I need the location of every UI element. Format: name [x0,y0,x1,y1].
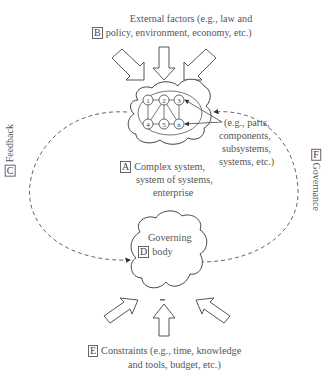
tag-e: E [88,345,98,357]
node-2: 2 [162,97,166,105]
node-3: 3 [177,97,181,105]
arrow-down-icon [153,47,175,80]
external-factors-label-line2: Bpolicy, environment, economy, etc.) [92,26,252,39]
tag-d: D [138,246,149,258]
external-factor-arrows [112,47,216,80]
governing-body-label: Governing [148,231,192,244]
complex-system-cloud [128,79,211,144]
complex-system-label-line3: enterprise [153,186,193,199]
parts-note-line4: systems, etc.) [219,155,274,168]
complex-system-label: AComplex system, [120,160,205,173]
tag-a: A [120,161,131,173]
arrow-right-down-icon [184,49,216,80]
governing-body-label-line2: Dbody [138,245,173,258]
tag-f: F [311,149,321,161]
external-factors-label: External factors (e.g., law and [86,12,296,25]
arrow-right-up-icon [104,298,138,323]
feedback-label: CFeedback [4,124,16,176]
arrow-left-down-icon [112,49,144,80]
parts-note-line2: components, [219,129,271,142]
feedback-arc [30,112,130,260]
node-n: n [177,121,181,129]
complex-system-label-line2: system of systems, [136,173,213,186]
constraint-arrows [104,298,230,336]
parts-note-line1: (e.g., parts, [224,116,270,129]
tag-c: C [5,165,16,177]
governance-label: FGovernance [310,150,322,211]
node-1: 1 [146,97,150,105]
constraints-label: EConstraints (e.g., time, knowledge [88,344,241,357]
arrow-left-up-icon [196,298,230,323]
parts-note-line3: subsystems, [222,142,271,155]
node-5: 5 [162,121,166,129]
constraints-label-line2: and tools, budget, etc.) [128,358,221,371]
arrow-up-icon [153,304,175,336]
tag-b: B [92,27,103,39]
node-4: 4 [146,121,150,129]
